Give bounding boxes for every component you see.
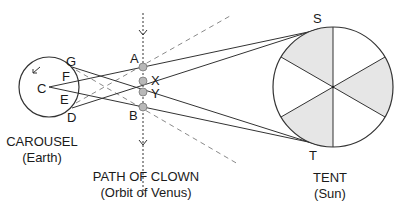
label-b: B [129,108,138,123]
label-c: C [37,81,46,96]
carousel-earth: C G F E D [19,54,79,125]
counter-clockwise-arrow-icon [33,67,40,73]
label-g: G [66,54,76,69]
clown-path-subtitle: (Orbit of Venus) [100,185,191,200]
tent-sun: S T [273,11,393,163]
line-e-x-s [72,29,318,108]
point-b [139,103,147,111]
label-s: S [313,11,322,26]
label-t: T [309,148,317,163]
clown-path-title: PATH OF CLOWN [93,169,199,184]
carousel-title: CAROUSEL [6,134,78,149]
point-y [139,88,147,96]
tent-subtitle: (Sun) [314,186,346,201]
point-a [139,63,147,71]
label-f: F [62,69,70,84]
label-e: E [60,92,69,107]
tent-sector-shaded [333,57,393,117]
point-x [139,77,147,85]
label-y: Y [151,86,160,101]
parallax-diagram: C G F E D A X Y B [0,0,405,206]
label-d: D [67,110,76,125]
label-a: A [130,51,139,66]
line-f-y-t [72,67,318,145]
carousel-subtitle: (Earth) [22,150,62,165]
solid-sight-lines [49,29,318,145]
tent-center [332,86,335,89]
tent-title: TENT [313,170,347,185]
